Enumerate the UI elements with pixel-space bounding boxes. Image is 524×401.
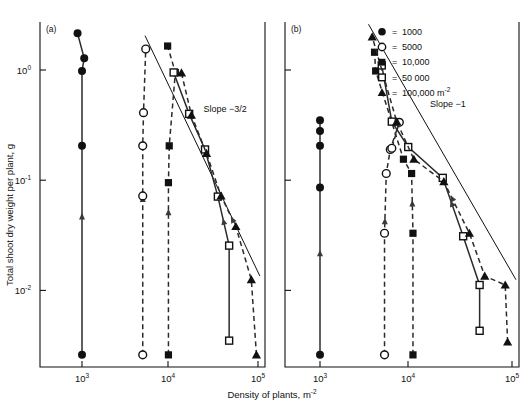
marker-filled-triangle: [231, 222, 240, 230]
marker-filled-square: [166, 142, 173, 149]
marker-filled-triangle: [501, 280, 510, 288]
marker-filled-circle: [316, 116, 324, 124]
reference-slope-line: [145, 36, 260, 276]
trajectory-line: [385, 122, 400, 355]
legend-label: 5000: [402, 42, 422, 52]
marker-filled-circle: [316, 183, 324, 191]
marker-open-square: [226, 242, 233, 249]
trajectory-arrowhead: [221, 218, 227, 225]
trajectory-arrowhead: [317, 250, 323, 257]
marker-filled-square: [164, 42, 171, 49]
legend: =1000=5000=10,000=50 000=100,000 m-2: [378, 27, 451, 98]
marker-filled-square: [379, 59, 386, 66]
figure-svg: (a)10310410510010-110-2Slope −3/2(b)1031…: [0, 0, 524, 401]
marker-open-circle: [381, 229, 389, 237]
marker-open-circle: [142, 45, 150, 53]
y-axis-title: Total shoot dry weight per plant, g: [4, 144, 15, 286]
x-tick-label: 105: [251, 372, 266, 384]
legend-label: 1000: [402, 27, 422, 37]
marker-open-circle: [140, 109, 148, 117]
trajectory-arrowhead: [382, 218, 388, 225]
x-tick-label: 103: [75, 372, 90, 384]
x-tick-label: 104: [161, 372, 176, 384]
trajectory-arrowhead: [165, 209, 171, 216]
legend-label: 100,000 m-2: [402, 86, 451, 98]
marker-filled-square: [409, 230, 416, 237]
marker-open-circle: [139, 351, 147, 359]
marker-filled-square: [400, 156, 407, 163]
marker-filled-triangle: [480, 271, 489, 279]
marker-open-square: [170, 69, 177, 76]
marker-open-circle: [378, 43, 385, 50]
marker-filled-circle: [316, 142, 324, 150]
marker-filled-circle: [78, 67, 86, 75]
y-tick-label: 10-2: [15, 284, 32, 296]
x-axis-title: Density of plants, m-2: [227, 388, 317, 400]
legend-item-1000: =1000: [378, 27, 422, 37]
marker-open-square: [476, 327, 483, 334]
marker-open-circle: [382, 170, 390, 178]
marker-filled-circle: [74, 29, 82, 37]
marker-open-square: [379, 74, 386, 81]
marker-filled-square: [409, 351, 416, 358]
marker-filled-square: [408, 170, 415, 177]
marker-filled-square: [165, 351, 172, 358]
trajectory-line: [168, 46, 176, 355]
panel-a: (a)10310410510010-110-2Slope −3/2: [15, 22, 266, 384]
marker-filled-circle: [78, 142, 86, 150]
trajectory-line: [78, 33, 85, 355]
legend-label: 50 000: [402, 73, 430, 83]
self-thinning-figure: (a)10310410510010-110-2Slope −3/2(b)1031…: [0, 0, 524, 401]
marker-open-circle: [381, 351, 389, 359]
marker-filled-circle: [316, 127, 324, 135]
trajectory-line: [143, 49, 146, 355]
legend-equals: =: [392, 73, 397, 83]
panel-label-b: (b): [291, 24, 302, 34]
marker-filled-circle: [378, 28, 386, 36]
marker-open-square: [476, 281, 483, 288]
trajectory-arrowhead: [409, 200, 415, 207]
marker-filled-triangle: [503, 337, 512, 345]
marker-filled-triangle: [252, 350, 261, 358]
marker-filled-square: [165, 179, 172, 186]
marker-filled-circle: [80, 54, 88, 62]
legend-equals: =: [392, 88, 397, 98]
marker-filled-circle: [316, 351, 324, 359]
x-tick-label: 104: [401, 372, 416, 384]
y-tick-label: 100: [17, 64, 32, 76]
series-1000: [316, 116, 324, 359]
legend-equals: =: [392, 27, 397, 37]
marker-open-circle: [139, 192, 147, 200]
legend-item-5000: =5000: [378, 42, 422, 52]
series-100000: [368, 32, 513, 345]
y-tick-label: 10-1: [15, 174, 32, 186]
marker-open-circle: [139, 142, 147, 150]
panel-label-a: (a): [46, 24, 57, 34]
slope-annotation-b: Slope −1: [430, 99, 466, 109]
legend-item-50000: =50 000: [379, 73, 430, 83]
x-tick-label: 105: [505, 372, 520, 384]
series-1000: [74, 29, 89, 359]
trajectory-arrowhead: [79, 213, 85, 220]
legend-item-10000: =10,000: [379, 57, 430, 67]
series-5000: [381, 118, 404, 358]
series-5000: [139, 45, 150, 359]
slope-annotation-a: Slope −3/2: [203, 104, 246, 114]
series-10000: [164, 42, 179, 358]
marker-filled-circle: [78, 351, 86, 359]
legend-equals: =: [392, 57, 397, 67]
marker-open-square: [226, 337, 233, 344]
x-tick-label: 103: [313, 372, 328, 384]
panel-frame-a: [40, 22, 265, 367]
marker-open-circle: [388, 144, 396, 152]
legend-label: 10,000: [402, 57, 430, 67]
marker-filled-triangle: [378, 88, 387, 96]
trajectory-arrowhead: [451, 195, 457, 202]
legend-equals: =: [392, 42, 397, 52]
marker-filled-triangle: [247, 275, 256, 283]
